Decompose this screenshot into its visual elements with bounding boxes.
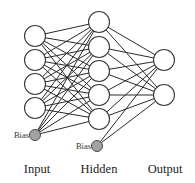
- input-neuron: [25, 26, 46, 47]
- neural-network-diagram: Bias Bias Input Hidden Output: [0, 0, 195, 183]
- hidden-neuron: [89, 37, 110, 58]
- hidden-bias-node: [92, 141, 103, 152]
- output-neuron: [154, 85, 175, 106]
- hidden-bias-label: Bias: [76, 141, 91, 151]
- hidden-neuron: [89, 12, 110, 33]
- hidden-neuron: [89, 61, 110, 82]
- output-layer-label: Output: [148, 162, 183, 176]
- hidden-neuron: [89, 85, 110, 106]
- hidden-neuron: [89, 109, 110, 130]
- hidden-layer-label: Hidden: [81, 162, 119, 176]
- input-neuron: [25, 50, 46, 71]
- input-neuron: [25, 98, 46, 119]
- output-neuron: [154, 50, 175, 71]
- input-layer-label: Input: [24, 162, 51, 176]
- input-bias-label: Bias: [14, 130, 29, 140]
- input-bias-node: [30, 130, 41, 141]
- input-neuron: [25, 74, 46, 95]
